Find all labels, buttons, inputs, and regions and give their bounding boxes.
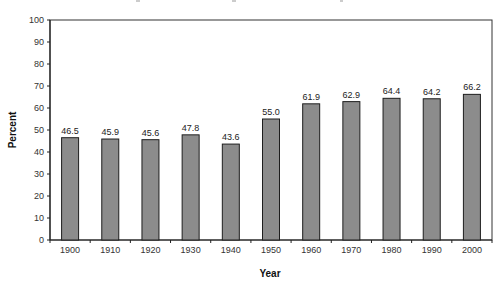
x-axis: 1900191019201930194019501960197019801990… xyxy=(50,240,492,255)
y-tick-label: 80 xyxy=(34,59,44,69)
y-tick-label: 30 xyxy=(34,169,44,179)
bar xyxy=(423,99,440,240)
bar-chart: 0102030405060708090100 19001910192019301… xyxy=(0,0,504,291)
x-tick-label: 1940 xyxy=(221,245,241,255)
y-tick-label: 50 xyxy=(34,125,44,135)
bar-value-label: 55.0 xyxy=(262,107,280,117)
x-tick-label: 1960 xyxy=(301,245,321,255)
y-tick-label: 0 xyxy=(39,235,44,245)
x-tick-label: 1930 xyxy=(181,245,201,255)
x-tick-label: 1990 xyxy=(422,245,442,255)
y-tick-label: 100 xyxy=(29,15,44,25)
bar-value-label: 45.9 xyxy=(102,127,120,137)
bar-value-label: 66.2 xyxy=(463,82,481,92)
x-tick-label: 1920 xyxy=(140,245,160,255)
x-tick-label: 1910 xyxy=(100,245,120,255)
bar xyxy=(303,104,320,240)
bar xyxy=(142,140,159,240)
x-tick-label: 1950 xyxy=(261,245,281,255)
bar-value-label: 62.9 xyxy=(343,90,361,100)
y-axis: 0102030405060708090100 xyxy=(29,15,50,245)
bar xyxy=(102,139,119,240)
y-tick-label: 40 xyxy=(34,147,44,157)
x-tick-label: 1900 xyxy=(60,245,80,255)
x-axis-title: Year xyxy=(259,268,280,279)
bar-value-label: 46.5 xyxy=(61,126,79,136)
chart-canvas: 0102030405060708090100 19001910192019301… xyxy=(0,0,504,291)
y-tick-label: 20 xyxy=(34,191,44,201)
bar xyxy=(343,102,360,240)
x-tick-label: 2000 xyxy=(462,245,482,255)
x-tick-label: 1980 xyxy=(382,245,402,255)
clipped-title xyxy=(136,0,343,2)
y-tick-label: 90 xyxy=(34,37,44,47)
bar-value-label: 64.2 xyxy=(423,87,441,97)
y-tick-label: 10 xyxy=(34,213,44,223)
bar xyxy=(263,119,280,240)
bar-value-label: 61.9 xyxy=(302,92,320,102)
bar xyxy=(222,144,239,240)
bar xyxy=(62,138,79,240)
bar-value-label: 45.6 xyxy=(142,128,160,138)
bar xyxy=(182,135,199,240)
bar-value-label: 47.8 xyxy=(182,123,200,133)
y-tick-label: 60 xyxy=(34,103,44,113)
bar xyxy=(463,94,480,240)
bar xyxy=(383,98,400,240)
bar-value-label: 43.6 xyxy=(222,132,240,142)
bar-value-label: 64.4 xyxy=(383,86,401,96)
y-axis-title: Percent xyxy=(7,111,18,148)
y-tick-label: 70 xyxy=(34,81,44,91)
x-tick-label: 1970 xyxy=(341,245,361,255)
